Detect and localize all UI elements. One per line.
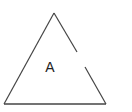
- triangle-label: A: [45, 59, 55, 75]
- triangle-diagram: A: [0, 0, 132, 112]
- triangle-right-edge-upper: [54, 13, 77, 52]
- triangle-right-edge-lower: [85, 67, 106, 104]
